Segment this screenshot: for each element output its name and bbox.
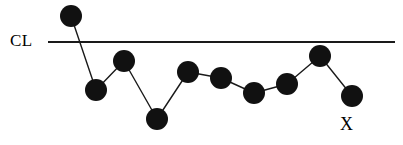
data-point-marker [85, 79, 107, 101]
series-markers-group [60, 5, 363, 130]
data-point-marker [113, 50, 135, 72]
data-point-marker [210, 67, 232, 89]
control-chart-figure: CL X [0, 0, 403, 145]
data-point-marker [146, 108, 168, 130]
data-point-marker [60, 5, 82, 27]
data-point-marker [309, 45, 331, 67]
series-connector-line [71, 16, 352, 119]
x-axis-label: X [340, 116, 354, 133]
series-line-group [71, 16, 352, 119]
center-line-label: CL [10, 32, 33, 49]
data-point-marker [276, 73, 298, 95]
data-point-marker [341, 85, 363, 107]
data-point-marker [177, 61, 199, 83]
data-point-marker [243, 82, 265, 104]
